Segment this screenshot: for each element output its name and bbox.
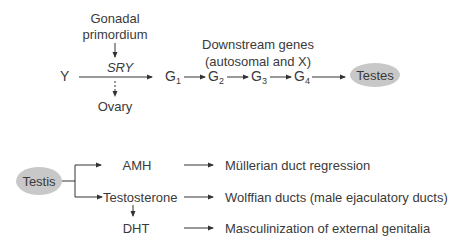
- testis-label: Testis: [22, 174, 55, 189]
- y-chromosome-label: Y: [60, 69, 69, 84]
- gene-g2: G2: [208, 69, 224, 84]
- testes-label: Testes: [356, 68, 394, 83]
- hormone-dht: DHT: [123, 221, 150, 236]
- ovary-label: Ovary: [98, 99, 133, 114]
- hormone-testosterone: Testosterone: [103, 190, 177, 205]
- downstream-genes-line1: Downstream genes: [202, 37, 314, 52]
- gene-g1: G1: [165, 69, 181, 84]
- effect-wolffian-ducts: Wolffian ducts (male ejaculatory ducts): [225, 190, 448, 205]
- gonadal-primordium-line2: primordium: [82, 27, 147, 42]
- effect-masculinization: Masculinization of external genitalia: [225, 221, 430, 236]
- effect-mullerian-regression: Müllerian duct regression: [225, 158, 370, 173]
- gene-g3: G3: [251, 69, 267, 84]
- hormone-amh: AMH: [123, 158, 152, 173]
- gene-g4: G4: [294, 69, 310, 84]
- sry-label: SRY: [107, 60, 133, 75]
- downstream-genes-line2: (autosomal and X): [205, 54, 311, 69]
- gonadal-primordium-line1: Gonadal: [90, 11, 139, 26]
